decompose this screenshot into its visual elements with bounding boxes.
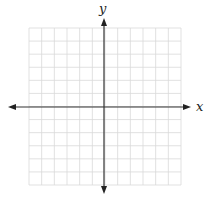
x-axis-left-arrow-icon [8, 104, 16, 110]
y-axis-label: y [98, 1, 107, 16]
x-axis [8, 104, 191, 110]
coordinate-plane: x y [0, 0, 211, 197]
y-axis-up-arrow-icon [101, 18, 107, 26]
x-axis-label: x [196, 99, 204, 114]
y-axis-down-arrow-icon [101, 186, 107, 194]
x-axis-right-arrow-icon [183, 104, 191, 110]
y-axis [101, 18, 107, 194]
